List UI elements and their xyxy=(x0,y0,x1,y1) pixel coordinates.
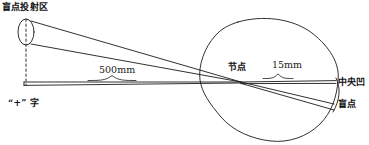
label-blind-spot-projection-zone: 盲点投射区 xyxy=(2,3,48,12)
label-blind-spot: 盲点 xyxy=(338,100,356,109)
eyeball-outline xyxy=(200,18,339,141)
brace-15mm xyxy=(263,74,293,79)
object-plane-bottom xyxy=(24,83,241,85)
label-object-distance-500mm: 500mm xyxy=(99,65,135,75)
optical-axis-top xyxy=(241,81,336,82)
brace-500mm xyxy=(88,76,136,81)
cross-word: 字 xyxy=(30,98,39,108)
diagram-canvas: 盲点投射区 500mm 节点 15mm 中央凹 盲点 “+” 字 xyxy=(0,0,369,145)
label-nodal-point: 节点 xyxy=(228,63,246,72)
ray-upper-to-nodal xyxy=(31,21,241,82)
ray-lower-to-nodal xyxy=(31,44,241,82)
plus-symbol: + xyxy=(13,98,21,108)
blind-spot-projection-diagram xyxy=(0,0,369,145)
label-eye-distance-15mm: 15mm xyxy=(272,60,302,70)
ray-inner-lower-to-blindspot xyxy=(241,83,334,110)
ray-inner-upper-to-blindspot xyxy=(241,82,334,104)
label-fovea: 中央凹 xyxy=(338,78,366,87)
label-fixation-cross: “+” 字 xyxy=(8,99,39,108)
close-quote: ” xyxy=(21,98,26,108)
